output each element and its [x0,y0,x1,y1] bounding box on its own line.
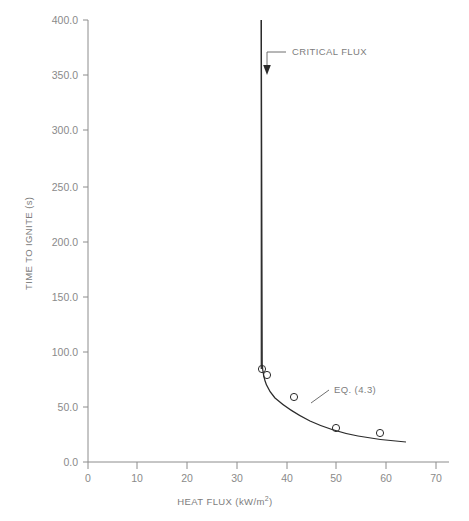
y-tick-label-100: 100.0 [52,346,78,358]
y-tick-label-350: 350.0 [52,69,78,81]
x-tick-label-20: 20 [181,472,193,484]
x-tick-label-0: 0 [85,472,91,484]
y-tick-label-300: 300.0 [52,124,78,136]
x-axis-title-main: HEAT FLUX (kW/m [177,496,264,507]
x-tick-label-40: 40 [281,472,293,484]
ignition-time-vs-heat-flux-chart: 0.0 50.0 100.0 150.0 200.0 250.0 300.0 3… [0,0,469,521]
y-axis-title: TIME TO IGNITE (s) [23,197,34,290]
x-axis-title: HEAT FLUX (kW/m2) [177,495,272,507]
y-tick-label-250: 250.0 [52,181,78,193]
critical-flux-label: CRITICAL FLUX [292,46,367,57]
x-tick-label-10: 10 [131,472,143,484]
equation-label: EQ. (4.3) [334,384,376,395]
y-tick-label-150: 150.0 [52,291,78,303]
x-tick-label-30: 30 [231,472,243,484]
x-tick-label-60: 60 [380,472,392,484]
x-tick-label-50: 50 [330,472,342,484]
y-tick-label-0: 0.0 [63,456,78,468]
x-axis-title-close: ) [269,496,273,507]
y-tick-label-400: 400.0 [52,14,78,26]
y-tick-label-200: 200.0 [52,236,78,248]
x-tick-label-70: 70 [430,472,442,484]
y-tick-label-50: 50.0 [58,401,79,413]
